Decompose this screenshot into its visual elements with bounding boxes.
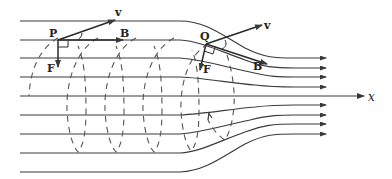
v-vector-p: [58, 20, 115, 40]
label-v-q: v: [263, 19, 271, 32]
field-line-5: [20, 105, 326, 115]
angle-arc-q: [222, 40, 226, 49]
field-line-7: [20, 124, 326, 153]
label-b-p: B: [120, 27, 129, 40]
helix-direction-arrow-icon: [208, 112, 212, 120]
angle-arc-p: [78, 33, 82, 40]
label-f-p: F: [47, 62, 55, 75]
helix-loop-4: [143, 38, 174, 152]
label-point-p: P: [49, 27, 57, 40]
helix-loop-2: [67, 38, 98, 152]
point-p-vectors: [58, 20, 123, 67]
label-b-q: B: [253, 60, 262, 73]
label-x-axis: x: [368, 90, 375, 104]
field-line-2: [20, 40, 326, 68]
label-v-p: v: [114, 6, 122, 19]
label-f-q: F: [203, 63, 211, 76]
label-point-q: Q: [200, 30, 210, 43]
magnetic-bottle-diagram: P v B F Q v B F x: [0, 0, 392, 179]
right-angle-mark-p: [58, 41, 68, 47]
field-line-4: [20, 77, 326, 87]
helix-loop-3: [105, 38, 136, 152]
field-lines: [20, 21, 364, 172]
